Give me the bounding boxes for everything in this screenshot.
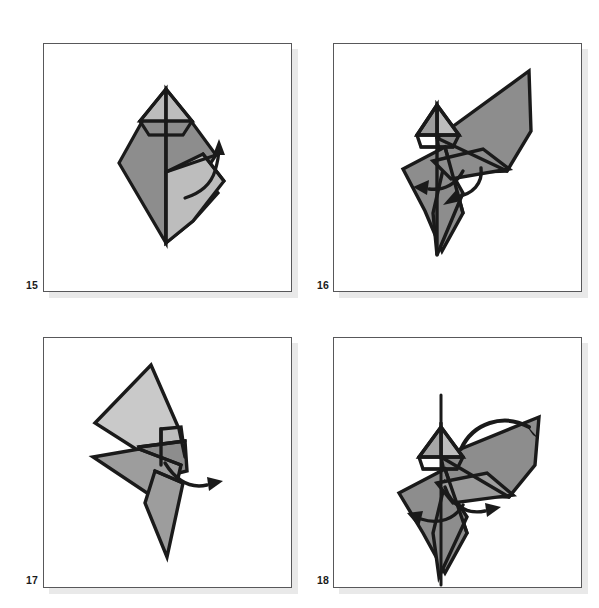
step-number-17: 17: [26, 575, 38, 586]
origami-figure-step-16: [333, 43, 582, 292]
fold-right-arrow-head: [485, 503, 501, 517]
step-number-16: 16: [317, 280, 329, 291]
instruction-sheet: 15: [0, 0, 599, 608]
fold-right-arrow-head: [207, 477, 223, 491]
step-number-15: 15: [26, 280, 38, 291]
fold-up-arrow-head: [213, 139, 225, 155]
origami-figure-step-18: [333, 337, 582, 588]
diagram-panel-step-17: [43, 337, 292, 588]
diagram-panel-step-15: [43, 43, 292, 292]
diagram-panel-step-18: [333, 337, 582, 588]
origami-figure-step-17: [43, 337, 292, 588]
diagram-panel-step-16: [333, 43, 582, 292]
step-number-18: 18: [317, 575, 329, 586]
origami-figure-step-15: [43, 43, 292, 292]
